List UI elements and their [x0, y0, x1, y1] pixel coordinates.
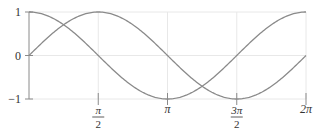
y-tick-label: −1 [8, 92, 21, 106]
x-tick-label-numerator: π [95, 104, 101, 116]
x-tick-label-numerator: 3π [230, 104, 243, 116]
x-tick-label-denominator: 2 [234, 118, 240, 130]
y-tick-labels: 10−1 [8, 5, 21, 106]
x-tick-label: 2π [300, 102, 313, 116]
x-tick-label-denominator: 2 [96, 118, 102, 130]
y-tick-label: 0 [15, 49, 21, 63]
x-tick-labels: π2π3π22π [92, 102, 313, 130]
y-tick-label: 1 [15, 5, 21, 19]
chart: 10−1 π2π3π22π [0, 0, 317, 131]
x-tick-label: π [164, 102, 171, 116]
